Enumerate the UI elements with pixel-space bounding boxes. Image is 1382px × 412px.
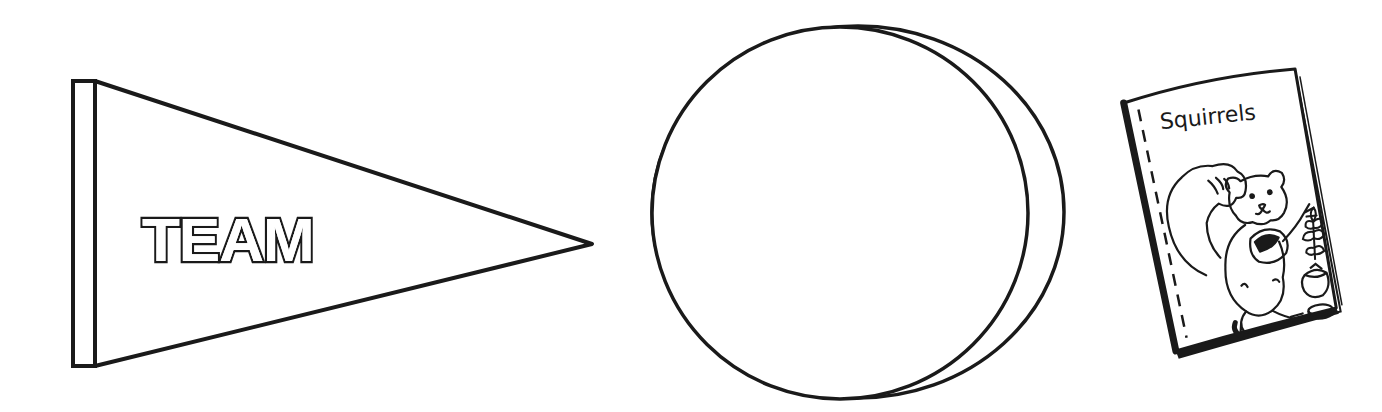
pennant-drawing: TEAM TEAM	[60, 70, 610, 380]
circle-front-face	[652, 27, 1028, 399]
circle-drawing	[640, 20, 1080, 410]
pennant-flag: TEAM TEAM	[60, 70, 610, 380]
pennant-pole	[73, 81, 95, 366]
pennant-text: TEAM	[142, 205, 314, 274]
book-drawing: Squirrels	[1120, 60, 1350, 370]
circle-badge	[640, 20, 1080, 410]
squirrels-book: Squirrels	[1120, 60, 1350, 370]
